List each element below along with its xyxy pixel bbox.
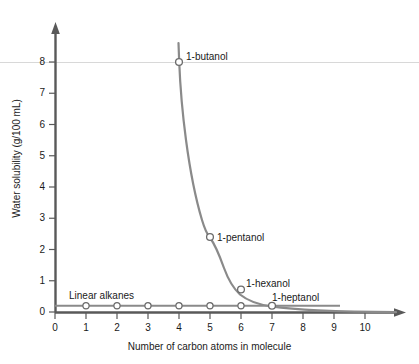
alkane-marker — [238, 303, 244, 309]
x-tick-label-8: 8 — [293, 323, 313, 333]
y-tick-label-2: 2 — [31, 245, 45, 255]
alkane-marker — [145, 303, 151, 309]
y-tick-label-8: 8 — [31, 57, 45, 67]
alkane-marker — [114, 303, 120, 309]
x-tick-label-7: 7 — [262, 323, 282, 333]
y-tick-label-5: 5 — [31, 151, 45, 161]
x-tick-label-1: 1 — [76, 323, 96, 333]
marker-1-hexanol — [238, 286, 245, 293]
alcohols-series-curve — [179, 43, 397, 312]
x-tick-label-0: 0 — [45, 323, 65, 333]
annotation-linear-alkanes: Linear alkanes — [69, 291, 134, 301]
y-tick-label-6: 6 — [31, 120, 45, 130]
solubility-chart: 0 1 2 3 4 5 6 7 8 0 1 2 3 4 5 6 7 8 9 10… — [0, 0, 419, 364]
annotation-1-pentanol: 1-pentanol — [217, 233, 264, 243]
x-tick-label-10: 10 — [355, 323, 375, 333]
annotation-1-heptanol: 1-heptanol — [272, 293, 319, 303]
marker-1-pentanol — [207, 234, 214, 241]
alkane-marker — [207, 303, 213, 309]
y-tick-label-0: 0 — [31, 307, 45, 317]
alkane-marker — [83, 303, 89, 309]
x-tick-label-4: 4 — [169, 323, 189, 333]
x-tick-label-2: 2 — [107, 323, 127, 333]
alkane-marker — [176, 303, 182, 309]
y-tick-marks — [49, 62, 55, 312]
x-tick-label-5: 5 — [200, 323, 220, 333]
y-tick-label-4: 4 — [31, 182, 45, 192]
x-axis-title: Number of carbon atoms in molecule — [0, 341, 419, 352]
x-tick-label-3: 3 — [138, 323, 158, 333]
marker-1-heptanol — [269, 302, 276, 309]
y-axis-arrowhead — [51, 22, 60, 34]
annotation-1-butanol: 1-butanol — [186, 52, 228, 62]
x-tick-label-6: 6 — [231, 323, 251, 333]
marker-1-butanol — [176, 59, 183, 66]
y-axis-title: Water solubility (g/100 mL) — [11, 79, 22, 239]
annotation-1-hexanol: 1-hexanol — [246, 279, 290, 289]
x-tick-label-9: 9 — [324, 323, 344, 333]
y-tick-label-3: 3 — [31, 213, 45, 223]
y-tick-label-7: 7 — [31, 88, 45, 98]
y-tick-label-1: 1 — [31, 276, 45, 286]
